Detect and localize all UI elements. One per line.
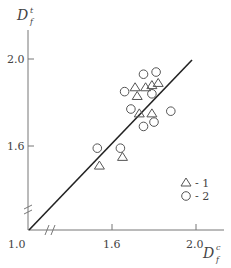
triangle-marker-icon [147, 109, 157, 117]
svg-text:D: D [202, 245, 214, 261]
circle-marker-icon [167, 107, 176, 116]
scatter-chart: 2.0 1.6 1.0 1.6 2.0 D t f D c f - 1 - 2 [0, 0, 231, 268]
svg-text:c: c [216, 243, 221, 252]
legend-label: - 1 [195, 177, 209, 190]
x-tick-label: 1.0 [8, 238, 26, 251]
x-tick-label: 2.0 [186, 238, 204, 251]
y-tick-label: 1.6 [7, 140, 25, 153]
data-points [93, 68, 175, 169]
triangle-marker-icon [181, 178, 191, 186]
y-axis-title: D t f [16, 6, 35, 26]
circle-marker-icon [93, 144, 102, 153]
circle-marker-icon [152, 68, 161, 77]
reference-line [29, 60, 192, 230]
circle-marker-icon [150, 118, 159, 127]
circle-marker-icon [139, 70, 148, 79]
svg-text:D: D [16, 7, 28, 23]
x-tick-label: 1.6 [103, 238, 121, 251]
legend-label: - 2 [195, 190, 209, 203]
svg-text:f: f [215, 255, 221, 264]
triangle-marker-icon [118, 152, 128, 160]
x-axis-title: D c f [202, 243, 221, 264]
circle-marker-icon [120, 87, 129, 96]
triangle-marker-icon [141, 83, 151, 91]
triangle-marker-icon [94, 161, 104, 169]
circle-marker-icon [116, 144, 125, 153]
circle-marker-icon [148, 90, 157, 99]
legend: - 1 - 2 [181, 177, 209, 203]
circle-marker-icon [139, 122, 148, 131]
circle-marker-icon [182, 192, 191, 201]
y-tick-label: 2.0 [7, 53, 25, 66]
svg-text:f: f [29, 17, 35, 26]
triangle-marker-icon [132, 91, 142, 99]
triangle-marker-icon [130, 83, 140, 91]
circle-marker-icon [127, 105, 136, 114]
svg-text:t: t [30, 6, 34, 15]
